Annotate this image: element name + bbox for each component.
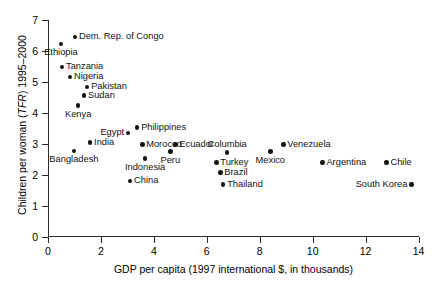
y-axis-title-post: ) 1995–2000 [16, 35, 28, 94]
y-axis-title: Children per woman (TFR) 1995–2000 [16, 10, 28, 240]
data-point-tanzania[interactable] [60, 65, 65, 70]
data-point-india[interactable] [88, 140, 93, 145]
data-label-philippines: Philippines [141, 123, 186, 132]
data-point-south-korea[interactable] [409, 182, 414, 187]
y-axis-title-tfr: TFR [16, 94, 28, 114]
data-point-china[interactable] [128, 179, 133, 184]
data-label-india: India [94, 138, 114, 147]
data-point-nigeria[interactable] [68, 75, 73, 80]
data-label-sudan: Sudan [88, 91, 115, 100]
data-label-dem-rep-of-congo: Dem. Rep. of Congo [79, 32, 164, 41]
data-point-peru[interactable] [168, 149, 173, 154]
data-point-bangladesh[interactable] [72, 149, 77, 154]
data-label-kenya: Kenya [65, 110, 91, 119]
data-label-indonesia: Indonesia [125, 163, 165, 172]
y-axis-title-pre: Children per woman ( [16, 115, 28, 215]
data-label-thailand: Thailand [227, 180, 263, 189]
data-point-columbia[interactable] [225, 150, 230, 155]
data-point-kenya[interactable] [76, 103, 81, 108]
data-label-tanzania: Tanzania [66, 62, 103, 71]
data-point-indonesia[interactable] [143, 156, 148, 161]
data-point-sudan[interactable] [82, 93, 87, 98]
data-label-south-korea: South Korea [356, 180, 408, 189]
data-point-dem-rep-of-congo[interactable] [73, 35, 78, 40]
data-label-bangladesh: Bangladesh [49, 155, 98, 164]
data-label-turkey: Turkey [220, 158, 248, 167]
data-point-egypt[interactable] [126, 131, 131, 136]
scatter-chart: 01234567 02468101214 Dem. Rep. of CongoE… [0, 0, 437, 284]
x-axis-title: GDP per capita (1997 international $, in… [48, 263, 419, 275]
data-point-pakistan[interactable] [85, 85, 90, 90]
data-label-venezuela: Venezuela [287, 140, 330, 149]
data-label-brazil: Brazil [224, 168, 247, 177]
data-point-mexico[interactable] [268, 149, 273, 154]
data-point-brazil[interactable] [218, 170, 223, 175]
data-point-turkey[interactable] [214, 160, 219, 165]
data-point-ethiopia[interactable] [59, 42, 64, 47]
data-point-argentina[interactable] [320, 160, 325, 165]
data-label-chile: Chile [390, 158, 411, 167]
data-label-mexico: Mexico [256, 156, 285, 165]
data-label-egypt: Egypt [100, 128, 124, 137]
data-point-chile[interactable] [384, 160, 389, 165]
data-point-philippines[interactable] [135, 125, 140, 130]
plot-area: Dem. Rep. of CongoEthiopiaTanzaniaNigeri… [0, 0, 437, 284]
data-label-ethiopia: Ethiopia [44, 48, 78, 57]
data-point-ecuador[interactable] [173, 142, 178, 147]
data-label-columbia: Columbia [208, 139, 247, 148]
data-point-thailand[interactable] [221, 182, 226, 187]
data-point-venezuela[interactable] [281, 142, 286, 147]
data-label-argentina: Argentina [326, 158, 366, 167]
data-label-china: China [134, 176, 158, 185]
data-point-morocco[interactable] [140, 142, 145, 147]
